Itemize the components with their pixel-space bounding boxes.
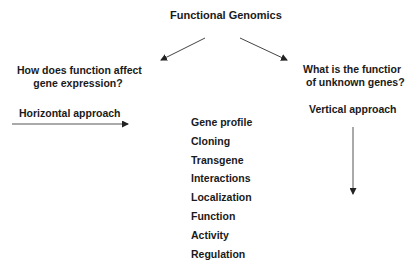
arrow-to-left-question [161,38,205,60]
arrows-layer [0,0,406,271]
arrow-to-right-question [240,38,287,60]
